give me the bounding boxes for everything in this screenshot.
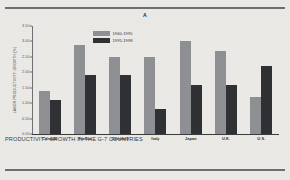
legend-label: 1960-1995 bbox=[113, 31, 133, 36]
legend-label: 1995-1998 bbox=[113, 38, 133, 43]
bar[interactable] bbox=[191, 85, 202, 134]
y-axis-tick-label: 3.50 bbox=[22, 24, 32, 28]
bar-chart-figure: A LABOR PRODUCTIVITY GROWTH (%) 0.000.50… bbox=[5, 12, 285, 152]
legend-swatch bbox=[93, 31, 110, 36]
bar[interactable] bbox=[215, 51, 226, 134]
bar[interactable] bbox=[226, 85, 237, 134]
y-axis-tick-label: 3.00 bbox=[22, 39, 32, 43]
y-axis-tick-label: 2.50 bbox=[22, 55, 32, 59]
x-axis-tick-label: Italy bbox=[138, 136, 173, 145]
legend-item[interactable]: 1960-1995 bbox=[93, 31, 133, 36]
bar[interactable] bbox=[50, 100, 61, 134]
bar[interactable] bbox=[39, 91, 50, 134]
figure-page: A LABOR PRODUCTIVITY GROWTH (%) 0.000.50… bbox=[0, 0, 290, 180]
bar[interactable] bbox=[74, 45, 85, 134]
bar-group bbox=[138, 26, 173, 134]
bar[interactable] bbox=[85, 75, 96, 134]
legend-item[interactable]: 1995-1998 bbox=[93, 38, 133, 43]
bar-group bbox=[32, 26, 67, 134]
panel-label: A bbox=[5, 12, 285, 18]
x-axis-line bbox=[32, 134, 279, 135]
bar[interactable] bbox=[144, 57, 155, 134]
y-axis-tick-label: 2.00 bbox=[22, 70, 32, 74]
top-divider-rule bbox=[5, 7, 285, 9]
bar[interactable] bbox=[180, 41, 191, 134]
y-axis-title-text: LABOR PRODUCTIVITY GROWTH (%) bbox=[14, 47, 18, 114]
x-axis-tick-label: Japan bbox=[173, 136, 208, 145]
bar[interactable] bbox=[261, 66, 272, 134]
chart-legend: 1960-19951995-1998 bbox=[93, 31, 133, 43]
legend-swatch bbox=[93, 38, 110, 43]
bar-group bbox=[244, 26, 279, 134]
x-axis-tick-label: U.K. bbox=[208, 136, 243, 145]
bar-group bbox=[173, 26, 208, 134]
bar[interactable] bbox=[109, 57, 120, 134]
y-axis-tick-label: 1.50 bbox=[22, 86, 32, 90]
bottom-divider-rule bbox=[5, 169, 285, 171]
bar[interactable] bbox=[120, 75, 131, 134]
figure-caption: PRODUCTIVITY GROWTH IN THE G-7 COUNTRIES bbox=[5, 136, 143, 142]
bar[interactable] bbox=[250, 97, 261, 134]
y-axis-tick-label: 1.00 bbox=[22, 101, 32, 105]
y-axis-tick-label: 0.50 bbox=[22, 117, 32, 121]
x-axis-tick-label: U.S. bbox=[244, 136, 279, 145]
y-axis-title: LABOR PRODUCTIVITY GROWTH (%) bbox=[11, 26, 20, 134]
bar-group bbox=[208, 26, 243, 134]
bar[interactable] bbox=[155, 109, 166, 134]
bar-groups bbox=[32, 26, 279, 134]
